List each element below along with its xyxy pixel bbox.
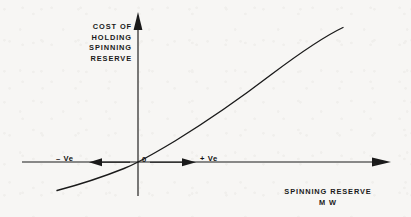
positive-direction-label: + Ve — [200, 154, 218, 163]
y-axis-arrowhead — [134, 12, 143, 30]
origin-label: 0 — [142, 155, 147, 164]
x-axis-label: SPINNING RESERVE M W — [268, 186, 388, 208]
chart-canvas — [0, 0, 411, 217]
negative-direction-arrowhead — [89, 158, 102, 166]
positive-direction-arrowhead — [182, 158, 196, 166]
y-axis-label: COST OF HOLDING SPINNING RESERVE — [70, 22, 132, 64]
x-axis-arrowhead — [372, 157, 391, 166]
negative-direction-label: – Ve — [56, 154, 74, 163]
chart-figure: COST OF HOLDING SPINNING RESERVE SPINNIN… — [0, 0, 411, 217]
